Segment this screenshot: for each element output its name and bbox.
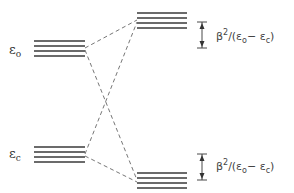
label-eps-o: εo: [9, 42, 21, 59]
upper-shift-label: β2/(εo− εc): [216, 28, 274, 45]
lower-shift-label: β2/(εo− εc): [216, 158, 274, 175]
upper-shift-arrow: [197, 22, 207, 48]
lower-shift-arrow: [197, 154, 207, 180]
level-group-right-lower: [137, 173, 187, 188]
level-group-eps-o: [34, 41, 85, 56]
label-eps-c: εc: [9, 146, 21, 163]
level-group-eps-c: [34, 147, 85, 162]
level-group-right-upper: [137, 13, 187, 28]
correlation-lines: [85, 20, 137, 182]
energy-level-diagram: εo εc β2/(εo− εc) β2/(εo− εc): [0, 0, 294, 193]
